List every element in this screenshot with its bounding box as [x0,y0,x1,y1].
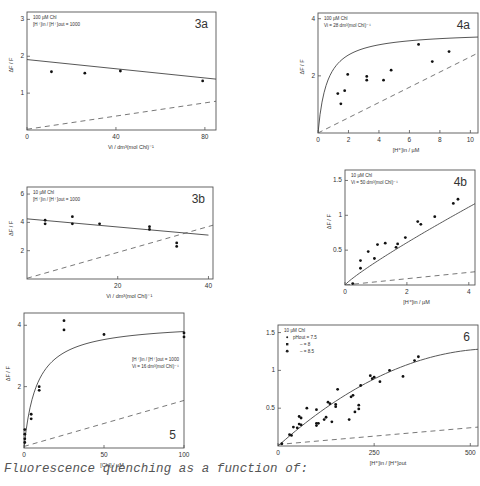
data-point [365,75,368,78]
data-point [98,222,101,225]
x-axis-label: [H⁺]in / µM [403,299,430,305]
data-point [315,424,318,427]
y-tick-label: 4 [17,321,21,328]
data-point [390,69,393,72]
data-point [300,417,303,420]
y-tick-label: 0.5 [266,404,275,411]
x-tick-label: 50 [100,451,108,458]
x-tick-label: 4 [467,288,471,295]
y-axis-label: ΔF / F [8,220,14,236]
data-point [201,80,204,83]
annotation-text: 100 µM Chl [324,16,348,21]
data-point [336,388,339,391]
data-point [452,202,455,205]
y-tick-label: 6 [20,190,24,197]
annotation-text: 10 µM Chl [284,328,305,333]
data-point [103,333,106,336]
legend-dot-marker [286,350,289,353]
data-point [175,242,178,245]
data-point [23,433,26,436]
panel-label: 4b [454,175,468,189]
figure-caption: Fluorescence quenching as a function of: [4,462,308,476]
panel-label: 6 [463,330,470,344]
chart-panel-4b: 0240.511.5[H⁺]in / µMΔF / F4b10 µM ChlVi… [326,170,475,305]
data-point [280,442,283,445]
data-point [44,222,47,225]
data-point [300,423,303,426]
x-tick-label: 2 [405,288,409,295]
data-point [38,389,41,392]
annotation-text: [H⁺]in / [H⁺]out = 1000 [33,22,80,27]
data-point [317,422,320,425]
data-point [290,434,293,437]
data-point [38,385,41,388]
x-tick-label: 2 [347,136,351,143]
y-tick-label: 2 [20,247,24,254]
fit-curve-dashed [27,225,213,278]
y-axis-label: ΔF / F [8,57,14,73]
data-point [329,402,332,405]
data-point [44,219,47,222]
annotation-text: [H⁺]in / [H⁺]out = 1000 [33,197,80,202]
y-axis-label: ΔF / F [5,366,11,382]
data-point [30,417,33,420]
data-point [382,79,385,82]
annotation-text: 10 µM Chl [351,173,372,178]
data-point [183,336,186,339]
data-point [376,243,379,246]
data-point [325,416,328,419]
data-point [296,426,299,429]
fit-curve-solid [27,219,208,235]
data-point [351,282,354,285]
y-tick-label: 4 [20,218,24,225]
data-point [413,359,416,362]
x-axis-label: [H⁺]in / µM [393,147,420,153]
panel-label: 4a [457,18,471,32]
data-point [305,407,308,410]
legend-square-marker [286,343,288,345]
data-point [419,223,422,226]
y-tick-label: 0.5 [333,246,342,253]
data-point [417,355,420,358]
data-point [336,92,339,95]
fit-curve-dashed [27,101,216,129]
fit-curve-dashed [24,400,184,446]
data-point [119,70,122,73]
chart-panel-6: 02505000.511.5[H⁺]in / [H⁺]out610 µM Chl… [266,325,478,466]
data-point [373,257,376,260]
data-point [395,246,398,249]
data-point [50,70,53,73]
data-point [431,60,434,63]
y-tick-label: 1 [338,211,342,218]
legend-dot-marker [286,336,288,338]
data-point [71,215,74,218]
chart-panel-4a: 024681024[H⁺]in / µMΔF / F4a100 µM ChlVi… [299,13,478,153]
data-point [292,426,295,429]
x-tick-label: 0 [25,133,29,140]
legend-label: pHout = 7.5 [293,335,317,340]
data-point [23,428,26,431]
x-tick-label: 6 [408,136,412,143]
x-tick-label: 0 [316,136,320,143]
fit-curve-dashed [318,53,478,133]
x-axis-label: Vi / dm³(mol Chl)⁻¹ [106,293,152,299]
data-point [369,374,372,377]
data-point [357,404,360,407]
y-tick-label: 3 [20,15,24,22]
annotation-text: [H⁺]in / [H⁺]out = 1000 [132,357,179,362]
data-point [417,43,420,46]
y-tick-label: 2 [17,383,21,390]
chart-panel-5: 05010024[Chl] / µMΔF / F5[H⁺]in / [H⁺]ou… [5,313,190,468]
data-point [396,242,399,245]
fit-curve-dashed [278,427,478,444]
data-point [388,369,391,372]
y-tick-label: 1.5 [333,176,342,183]
data-point [63,319,66,322]
data-point [359,259,362,262]
data-point [348,418,351,421]
fit-curve-solid [278,349,478,446]
data-point [359,384,362,387]
y-tick-label: 1 [20,89,24,96]
x-tick-label: 0 [276,449,280,456]
annotation-text: 10 µM Chl [33,190,54,195]
